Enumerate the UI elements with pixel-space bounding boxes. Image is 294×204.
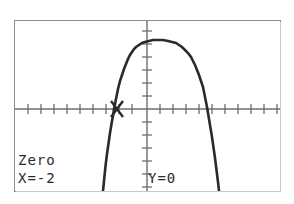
calc-result-label: Zero <box>18 153 56 168</box>
lcd-screen-frame: Zero X=-2 Y=0 <box>14 20 281 192</box>
calculator-screenshot: Zero X=-2 Y=0 <box>0 0 294 204</box>
cursor-y-readout: Y=0 <box>148 171 176 186</box>
cursor-x-readout: X=-2 <box>18 171 56 186</box>
